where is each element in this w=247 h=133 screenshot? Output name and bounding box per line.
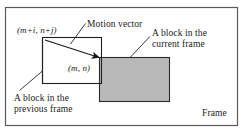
- current-frame-block-label-line1: A block in the: [152, 28, 207, 38]
- motion-vector-label: Motion vector: [87, 19, 142, 30]
- current-frame-block-label-line2: current frame: [152, 39, 207, 50]
- figure-container: (m+i, n+j) (m, n) Motion vector A block …: [0, 0, 247, 133]
- frame-label: Frame: [202, 108, 227, 119]
- current-frame-block: [100, 58, 170, 102]
- current-frame-block-label: A block in the current frame: [152, 28, 207, 50]
- previous-frame-block-label-line2: previous frame: [14, 104, 73, 115]
- previous-block-leader-line: [20, 71, 44, 91]
- previous-frame-block: [43, 38, 102, 84]
- previous-frame-block-label: A block in the previous frame: [14, 93, 73, 115]
- previous-frame-block-label-line1: A block in the: [14, 93, 69, 103]
- previous-block-coordinate-label: (m+i, n+j): [17, 25, 57, 36]
- current-block-coordinate-label: (m, n): [68, 63, 90, 74]
- current-block-leader-line: [131, 37, 151, 58]
